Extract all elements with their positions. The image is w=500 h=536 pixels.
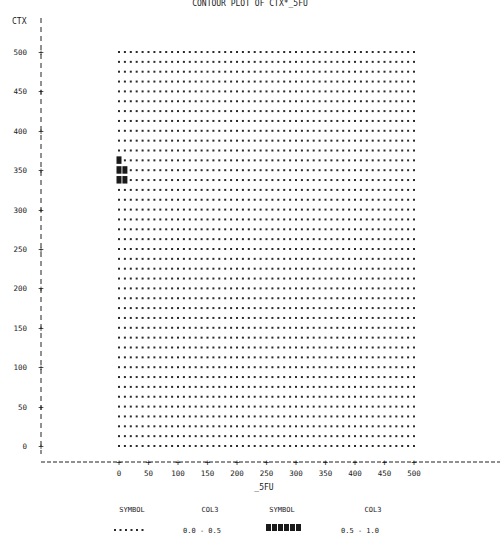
cell-low <box>289 425 291 427</box>
cell-low <box>271 209 273 211</box>
cell-low <box>354 317 356 319</box>
legend: SYMBOL COL3 SYMBOL COL3 0.0 - 0.5 0.5 - … <box>114 506 381 535</box>
cell-low <box>230 406 232 408</box>
legend-block <box>278 524 283 531</box>
cell-low <box>165 445 167 447</box>
cell-low <box>230 396 232 398</box>
cell-low <box>354 356 356 358</box>
cell-low <box>165 61 167 63</box>
cell-low <box>189 110 191 112</box>
cell-low <box>254 386 256 388</box>
cell-low <box>395 445 397 447</box>
cell-low <box>360 287 362 289</box>
cell-low <box>153 140 155 142</box>
cell-low <box>212 445 214 447</box>
cell-low <box>171 307 173 309</box>
cell-low <box>254 130 256 132</box>
cell-low <box>207 415 209 417</box>
cell-low <box>189 199 191 201</box>
cell-low <box>230 317 232 319</box>
cell-low <box>195 356 197 358</box>
cell-low <box>201 218 203 220</box>
cell-low <box>171 278 173 280</box>
cell-low <box>230 307 232 309</box>
cell-low <box>230 169 232 171</box>
cell-low <box>342 258 344 260</box>
cell-low <box>242 268 244 270</box>
cell-low <box>389 425 391 427</box>
cell-low <box>142 218 144 220</box>
cell-low <box>378 179 380 181</box>
cell-low <box>254 199 256 201</box>
cell-low <box>236 268 238 270</box>
cell-low <box>266 150 268 152</box>
cell-low <box>218 159 220 161</box>
cell-low <box>230 71 232 73</box>
cell-low <box>378 71 380 73</box>
cell-low <box>330 386 332 388</box>
cell-low <box>224 406 226 408</box>
x-tick-label: 250 <box>260 469 274 478</box>
cell-low <box>401 406 403 408</box>
cell-low <box>407 356 409 358</box>
cell-low <box>118 406 120 408</box>
cell-low <box>189 268 191 270</box>
cell-low <box>153 415 155 417</box>
cell-low <box>283 356 285 358</box>
cell-low <box>124 140 126 142</box>
cell-low <box>407 228 409 230</box>
cell-low <box>201 406 203 408</box>
cell-low <box>366 337 368 339</box>
cell-low <box>384 100 386 102</box>
cell-low <box>271 347 273 349</box>
cell-low <box>395 366 397 368</box>
cell-low <box>378 110 380 112</box>
cell-low <box>201 130 203 132</box>
cell-low <box>230 228 232 230</box>
cell-low <box>260 159 262 161</box>
cell-low <box>289 150 291 152</box>
cell-low <box>159 337 161 339</box>
cell-low <box>336 366 338 368</box>
cell-low <box>313 209 315 211</box>
cell-low <box>354 120 356 122</box>
cell-low <box>130 366 132 368</box>
cell-low <box>354 110 356 112</box>
cell-low <box>413 51 415 53</box>
cell-low <box>389 337 391 339</box>
cell-low <box>242 159 244 161</box>
cell-low <box>301 51 303 53</box>
cell-low <box>295 376 297 378</box>
cell-low <box>189 347 191 349</box>
cell-low <box>313 425 315 427</box>
cell-low <box>266 317 268 319</box>
cell-low <box>177 396 179 398</box>
cell-low <box>277 238 279 240</box>
cell-low <box>195 218 197 220</box>
cell-low <box>271 278 273 280</box>
cell-low <box>254 337 256 339</box>
cell-low <box>248 268 250 270</box>
cell-low <box>266 258 268 260</box>
cell-low <box>283 415 285 417</box>
cell-low <box>348 396 350 398</box>
cell-low <box>142 120 144 122</box>
cell-low <box>189 415 191 417</box>
cell-low <box>148 150 150 152</box>
cell-low <box>260 396 262 398</box>
cell-low <box>118 415 120 417</box>
cell-low <box>183 337 185 339</box>
cell-low <box>307 238 309 240</box>
cell-low <box>171 61 173 63</box>
cell-low <box>165 386 167 388</box>
cell-low <box>248 406 250 408</box>
cell-low <box>153 317 155 319</box>
cell-low <box>319 150 321 152</box>
cell-low <box>171 218 173 220</box>
cell-low <box>271 396 273 398</box>
cell-low <box>372 386 374 388</box>
cell-low <box>277 169 279 171</box>
cell-low <box>319 61 321 63</box>
cell-low <box>283 159 285 161</box>
cell-low <box>248 297 250 299</box>
